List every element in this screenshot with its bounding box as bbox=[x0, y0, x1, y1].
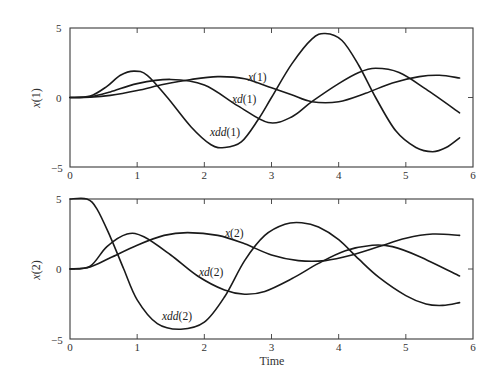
y-axis-label: x(1) bbox=[29, 88, 43, 108]
x-tick-label: 1 bbox=[134, 341, 140, 353]
x-tick-label: 4 bbox=[336, 341, 342, 353]
label-xdd1: xdd(1) bbox=[209, 126, 240, 139]
x-tick-labels: 0123456 bbox=[67, 341, 476, 353]
curve-xdd2 bbox=[70, 198, 460, 329]
bottom-subplot: 5 0 −5 0123456 x(2) x(2) xd(2) xdd(2) Ti… bbox=[29, 193, 476, 368]
x-tick-label: 0 bbox=[67, 341, 73, 353]
ytick-5: 5 bbox=[56, 193, 62, 205]
x-tick-label: 3 bbox=[269, 169, 275, 181]
label-x2: x(2) bbox=[224, 227, 244, 240]
y-axis-label-idx: (1) bbox=[29, 88, 43, 102]
curves bbox=[70, 34, 460, 152]
x-tick-label: 3 bbox=[269, 341, 275, 353]
x-tick-label: 1 bbox=[134, 169, 140, 181]
x-tick-label: 6 bbox=[470, 341, 476, 353]
label-xd1: xd(1) bbox=[231, 93, 256, 106]
x-tick-label: 2 bbox=[202, 169, 208, 181]
label-x1: x(1) bbox=[247, 71, 267, 84]
x-tick-label: 0 bbox=[67, 169, 73, 181]
x-tick-labels: 0123456 bbox=[67, 169, 476, 181]
ytick-minus5: −5 bbox=[51, 334, 63, 346]
chart-figure: 5 0 −5 0123456 x(1) x(1) xd(1) xdd(1) 5 … bbox=[0, 0, 500, 387]
plot-frame bbox=[70, 199, 473, 339]
x-tick-label: 5 bbox=[403, 341, 409, 353]
x-tick-label: 5 bbox=[403, 169, 409, 181]
curve-xd2 bbox=[70, 233, 460, 294]
x-axis-label: Time bbox=[260, 354, 285, 368]
y-axis-label: x(2) bbox=[29, 260, 43, 280]
y-axis-label-idx: (2) bbox=[29, 260, 43, 274]
axis-ticks bbox=[70, 199, 473, 339]
x-tick-label: 2 bbox=[202, 341, 208, 353]
label-xdd2: xdd(2) bbox=[161, 310, 192, 323]
top-subplot: 5 0 −5 0123456 x(1) x(1) xd(1) xdd(1) bbox=[29, 22, 476, 181]
ytick-5: 5 bbox=[56, 22, 62, 34]
x-tick-label: 6 bbox=[470, 169, 476, 181]
curve-x2 bbox=[70, 233, 460, 269]
ytick-0: 0 bbox=[56, 263, 62, 275]
ytick-minus5: −5 bbox=[51, 162, 63, 174]
ytick-0: 0 bbox=[56, 92, 62, 104]
label-xd2: xd(2) bbox=[198, 266, 223, 279]
curves bbox=[70, 198, 460, 329]
x-tick-label: 4 bbox=[336, 169, 342, 181]
